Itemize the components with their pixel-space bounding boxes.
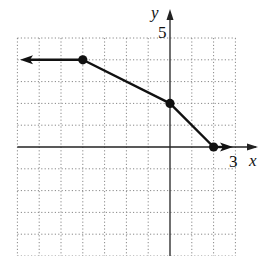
- y-tick-5: 5: [158, 23, 167, 42]
- x-tick-3: 3: [229, 152, 238, 171]
- coordinate-plane: y x 5 3: [0, 0, 263, 256]
- x-axis-label: x: [248, 151, 257, 170]
- closed-dot-point: [165, 99, 174, 108]
- closed-dot-point: [209, 142, 218, 151]
- y-axis-label: y: [149, 3, 159, 22]
- y-axis-arrow-icon: [167, 9, 174, 20]
- axes: [17, 9, 258, 256]
- x-axis-arrow-icon: [247, 144, 258, 151]
- chart-container: y x 5 3: [0, 0, 263, 256]
- closed-dot-point: [78, 55, 87, 64]
